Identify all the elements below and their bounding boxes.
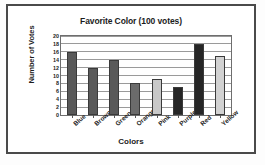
bar-pink: [152, 79, 162, 115]
bar-green: [109, 60, 119, 115]
bar-group: Green: [104, 36, 125, 115]
bar-group: Red: [189, 36, 210, 115]
bar-group: Blue: [61, 36, 82, 115]
y-tick-label: 8: [56, 80, 59, 86]
bar-group: Purple: [167, 36, 188, 115]
y-tick-label: 18: [53, 41, 59, 47]
x-tick-mark: [72, 115, 73, 118]
y-tick-label: 12: [53, 65, 59, 71]
y-tick-label: 10: [53, 73, 59, 79]
x-tick-mark: [114, 115, 115, 118]
x-tick-mark: [157, 115, 158, 118]
x-tick-label: Red: [199, 114, 213, 127]
bar-group: Orange: [125, 36, 146, 115]
x-tick-mark: [178, 115, 179, 118]
x-axis-title: Colors: [8, 137, 254, 146]
bar-yellow: [215, 56, 225, 115]
bar-blue: [67, 52, 77, 115]
figure-border: Favorite Color (100 votes) Number of Vot…: [6, 4, 256, 154]
bar-brown: [88, 68, 98, 115]
y-tick-label: 14: [53, 57, 59, 63]
bar-orange: [130, 83, 140, 115]
y-tick-label: 4: [56, 96, 59, 102]
x-tick-mark: [220, 115, 221, 118]
x-tick-mark: [135, 115, 136, 118]
bar-group: Yellow: [210, 36, 231, 115]
x-tick-mark: [93, 115, 94, 118]
bar-group: Pink: [146, 36, 167, 115]
y-tick-label: 16: [53, 49, 59, 55]
chart-title: Favorite Color (100 votes): [8, 16, 254, 26]
bar-series: BlueBrownGreenOrangePinkPurpleRedYellow: [61, 36, 231, 115]
y-tick-label: 20: [53, 33, 59, 39]
y-tick-label: 6: [56, 88, 59, 94]
y-axis-title: Number of Votes: [27, 15, 36, 95]
y-tick-label: 2: [56, 104, 59, 110]
bar-group: Brown: [82, 36, 103, 115]
plot-area: 02468101214161820 BlueBrownGreenOrangePi…: [60, 35, 232, 116]
x-tick-mark: [199, 115, 200, 118]
y-tick-label: 0: [56, 112, 59, 118]
chart-figure: Favorite Color (100 votes) Number of Vot…: [0, 0, 265, 165]
bar-red: [194, 44, 204, 115]
bar-purple: [173, 87, 183, 115]
